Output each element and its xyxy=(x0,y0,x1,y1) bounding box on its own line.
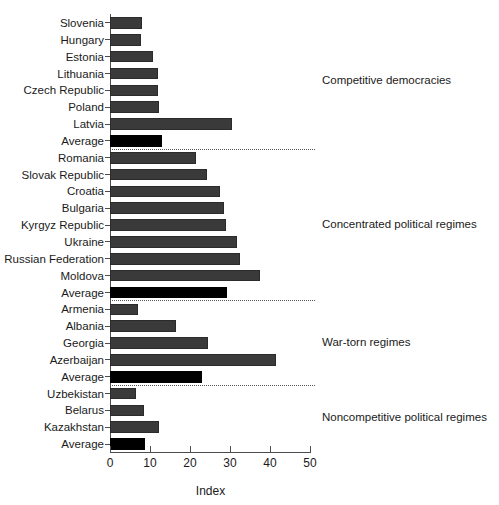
y-tick-label: Russian Federation xyxy=(0,250,104,268)
y-tick-label: Belarus xyxy=(0,401,104,419)
y-tick-label: Armenia xyxy=(0,300,104,318)
x-tick-mark xyxy=(190,446,191,452)
bar-row xyxy=(110,31,310,49)
bar-row xyxy=(110,216,310,234)
y-tick-label: Poland xyxy=(0,98,104,116)
group-separator xyxy=(110,300,315,301)
bar-row xyxy=(110,132,310,150)
country-bar xyxy=(110,236,237,248)
y-tick-label: Czech Republic xyxy=(0,81,104,99)
y-tick-label: Romania xyxy=(0,149,104,167)
x-tick-label: 50 xyxy=(290,456,330,470)
y-tick-label: Average xyxy=(0,132,104,150)
x-tick-label: 0 xyxy=(90,456,130,470)
bar-row xyxy=(110,250,310,268)
x-tick-label: 40 xyxy=(250,456,290,470)
group-annotation-label: Noncompetitive political regimes xyxy=(322,411,487,423)
bar-row xyxy=(110,284,310,302)
y-tick-label: Lithuania xyxy=(0,65,104,83)
y-tick-label: Average xyxy=(0,435,104,453)
bar-row xyxy=(110,334,310,352)
bar-row xyxy=(110,149,310,167)
x-tick-label: 30 xyxy=(210,456,250,470)
bar-row xyxy=(110,115,310,133)
bar-row xyxy=(110,267,310,285)
country-bar xyxy=(110,68,158,80)
group-separator xyxy=(110,385,315,386)
x-tick-mark xyxy=(110,446,111,452)
y-tick-label: Bulgaria xyxy=(0,199,104,217)
country-bar xyxy=(110,17,142,29)
country-bar xyxy=(110,85,158,97)
country-bar xyxy=(110,169,207,181)
country-bar xyxy=(110,354,276,366)
bar-row xyxy=(110,385,310,403)
y-tick-label: Croatia xyxy=(0,182,104,200)
y-tick-label: Albania xyxy=(0,317,104,335)
x-tick-mark xyxy=(310,446,311,452)
y-tick-label: Latvia xyxy=(0,115,104,133)
country-bar xyxy=(110,152,196,164)
y-tick-label: Slovak Republic xyxy=(0,166,104,184)
country-bar xyxy=(110,405,144,417)
y-tick-label: Estonia xyxy=(0,48,104,66)
group-annotation-label: Concentrated political regimes xyxy=(322,218,477,230)
y-tick-label: Slovenia xyxy=(0,14,104,32)
bar-row xyxy=(110,81,310,99)
y-tick-label: Georgia xyxy=(0,334,104,352)
y-tick-label: Average xyxy=(0,368,104,386)
x-tick-mark xyxy=(150,446,151,452)
y-tick-label: Ukraine xyxy=(0,233,104,251)
bar-row xyxy=(110,65,310,83)
x-tick-label: 10 xyxy=(130,456,170,470)
bar-row xyxy=(110,418,310,436)
country-bar xyxy=(110,118,232,130)
bar-row xyxy=(110,199,310,217)
country-bar xyxy=(110,219,226,231)
country-bar xyxy=(110,51,153,63)
x-tick-mark xyxy=(230,446,231,452)
bar-row xyxy=(110,166,310,184)
group-annotation-label: War-torn regimes xyxy=(322,336,410,348)
x-axis-title: Index xyxy=(110,484,311,498)
group-separator xyxy=(110,149,315,150)
bar-row xyxy=(110,233,310,251)
average-bar xyxy=(110,371,202,383)
y-tick-label: Average xyxy=(0,284,104,302)
bar-row xyxy=(110,351,310,369)
country-bar xyxy=(110,202,224,214)
bar-row xyxy=(110,368,310,386)
country-bar xyxy=(110,34,141,46)
country-bar xyxy=(110,101,159,113)
bar-row xyxy=(110,300,310,318)
country-bar xyxy=(110,186,220,198)
y-tick-label: Kyrgyz Republic xyxy=(0,216,104,234)
y-tick-label: Moldova xyxy=(0,267,104,285)
y-tick-label: Kazakhstan xyxy=(0,418,104,436)
x-tick-label: 20 xyxy=(170,456,210,470)
bar-row xyxy=(110,48,310,66)
bar-row xyxy=(110,401,310,419)
bar-chart: SloveniaHungaryEstoniaLithuaniaCzech Rep… xyxy=(0,0,499,505)
country-bar xyxy=(110,337,208,349)
bars-layer xyxy=(110,14,310,452)
country-bar xyxy=(110,388,136,400)
group-annotation-label: Competitive democracies xyxy=(322,74,451,86)
country-bar xyxy=(110,304,138,316)
average-bar xyxy=(110,287,227,299)
y-tick-label: Azerbaijan xyxy=(0,351,104,369)
average-bar xyxy=(110,438,145,450)
bar-row xyxy=(110,14,310,32)
country-bar xyxy=(110,320,176,332)
bar-row xyxy=(110,435,310,453)
country-bar xyxy=(110,421,159,433)
country-bar xyxy=(110,270,260,282)
bar-row xyxy=(110,98,310,116)
bar-row xyxy=(110,182,310,200)
country-bar xyxy=(110,253,240,265)
average-bar xyxy=(110,135,162,147)
y-tick-label: Hungary xyxy=(0,31,104,49)
x-tick-mark xyxy=(270,446,271,452)
bar-row xyxy=(110,317,310,335)
y-tick-label: Uzbekistan xyxy=(0,385,104,403)
